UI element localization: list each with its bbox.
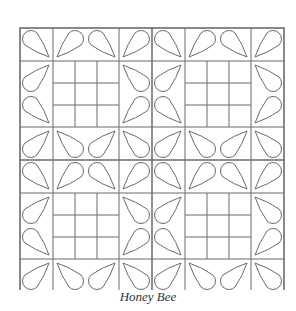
petal-shape — [57, 30, 84, 57]
petal-shape — [189, 131, 216, 158]
petal-shape — [22, 162, 49, 189]
figure-caption: Honey Bee — [0, 289, 296, 305]
petal-shape — [255, 30, 282, 57]
petal-shape — [89, 163, 116, 190]
petal-shape — [22, 65, 49, 92]
petal-shape — [189, 163, 215, 190]
petal-shape — [123, 30, 150, 57]
petal-shape — [255, 65, 282, 92]
petal-shape — [255, 263, 282, 290]
petal-shape — [22, 131, 49, 158]
petal-shape — [123, 263, 150, 290]
petal-shape — [123, 131, 150, 158]
petal-shape — [23, 31, 50, 58]
petal-shape — [22, 263, 49, 290]
petal-shape — [123, 163, 150, 190]
petal-shape — [154, 197, 181, 224]
petal-shape — [255, 197, 282, 224]
petal-shape — [88, 30, 115, 57]
petal-shape — [155, 163, 182, 190]
petal-shape — [154, 263, 181, 290]
petal-shape — [154, 65, 181, 92]
petal-shape — [255, 163, 281, 190]
petal-shape — [88, 263, 115, 290]
petal-shape — [154, 30, 181, 57]
petal-shape — [123, 96, 150, 123]
petal-shape — [57, 163, 84, 189]
petal-shape — [189, 30, 216, 57]
petal-shape — [220, 30, 247, 57]
petal-shape — [22, 228, 49, 255]
petal-shape — [154, 228, 181, 255]
petal-shape — [255, 131, 282, 158]
honey-bee-quilt-diagram — [0, 0, 296, 290]
petal-shape — [220, 263, 247, 290]
petal-shape — [123, 197, 150, 224]
petal-shape — [154, 131, 181, 158]
petal-shape — [189, 263, 216, 290]
petal-shape — [255, 228, 282, 255]
petal-shape — [22, 96, 49, 123]
petal-shape — [88, 131, 115, 158]
petal-shape — [123, 65, 150, 92]
petal-shape — [221, 163, 248, 190]
petal-shape — [220, 131, 247, 158]
petal-shape — [57, 263, 84, 290]
quilt-grid — [20, 28, 284, 290]
petal-shape — [123, 228, 150, 255]
petal-shape — [57, 131, 84, 158]
petal-shape — [154, 96, 181, 123]
petal-shape — [22, 197, 49, 224]
petal-shape — [255, 96, 282, 123]
